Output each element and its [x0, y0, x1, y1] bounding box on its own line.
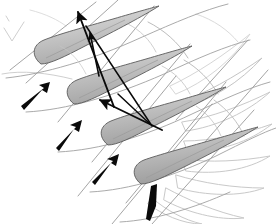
sketch-figure: Hand-drawn pencil sketch of an axial tur…	[0, 0, 276, 224]
cascade-sketch-canvas	[0, 0, 276, 224]
